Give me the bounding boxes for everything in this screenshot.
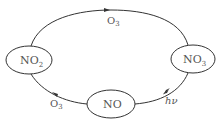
node-no2-label: NO xyxy=(20,54,39,67)
edge-no-to-no2 xyxy=(31,74,87,104)
nox-cycle-diagram: NO2 NO3 NO O3 hν O3 xyxy=(0,0,222,127)
node-no: NO xyxy=(87,90,135,118)
node-no3-label: NO xyxy=(183,53,202,66)
node-no3-subscript: 3 xyxy=(202,60,206,68)
svg-text:NO: NO xyxy=(103,98,122,111)
arrow-head-icon xyxy=(104,8,110,12)
node-no2-subscript: 2 xyxy=(39,61,43,69)
edge-label-o3-top: O3 xyxy=(107,15,120,28)
node-no-label: NO xyxy=(103,98,122,111)
node-no3: NO3 xyxy=(171,45,215,73)
edge-no3-to-no xyxy=(135,73,188,104)
node-no2: NO2 xyxy=(6,46,52,74)
edge-label-o3-bottom: O3 xyxy=(50,98,63,111)
edge-label-hv: hν xyxy=(165,95,178,106)
